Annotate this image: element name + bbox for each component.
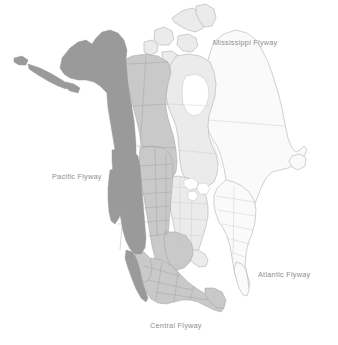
pacific-flyway-label: Pacific Flyway [52, 172, 102, 181]
central-flyway-label: Central Flyway [150, 321, 202, 330]
north-america-flyway-map: .rg{stroke:#9b9b9b;stroke-width:.45;stro… [0, 0, 338, 345]
mississippi-flyway-label: Mississippi Flyway [213, 38, 278, 47]
flyway-map-container: .rg{stroke:#9b9b9b;stroke-width:.45;stro… [0, 0, 338, 345]
atlantic-flyway-label: Atlantic Flyway [258, 270, 310, 279]
